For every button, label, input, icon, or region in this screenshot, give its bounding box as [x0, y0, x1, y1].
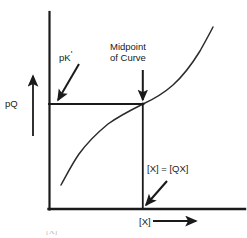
midpoint-label-line-1: Midpoint: [110, 41, 146, 52]
plot-canvas: [0, 0, 247, 238]
pk-prime-label: pK': [59, 52, 72, 63]
y-axis-label: pQ: [5, 98, 18, 109]
cropped-caption-text: [X]: [6, 231, 57, 236]
x-equals-qx-leader-arrow: [146, 181, 167, 205]
plot-axes: [49, 12, 246, 210]
x-equals-qx-label: [X] = [QX]: [147, 163, 188, 174]
midpoint-annotation-label: Midpointof Curve: [110, 41, 146, 63]
prime-mark-icon: ': [71, 49, 73, 59]
binding-curve-figure: pQ pK' Midpointof Curve [X] = [QX] [X] […: [0, 0, 247, 238]
pk-prime-base: pK: [59, 52, 71, 63]
midpoint-label-line-2: of Curve: [110, 52, 146, 63]
cropped-caption-strip: [X]: [0, 231, 247, 238]
pk-prime-leader-arrow: [58, 64, 79, 100]
x-axis-label: [X]: [139, 216, 151, 227]
